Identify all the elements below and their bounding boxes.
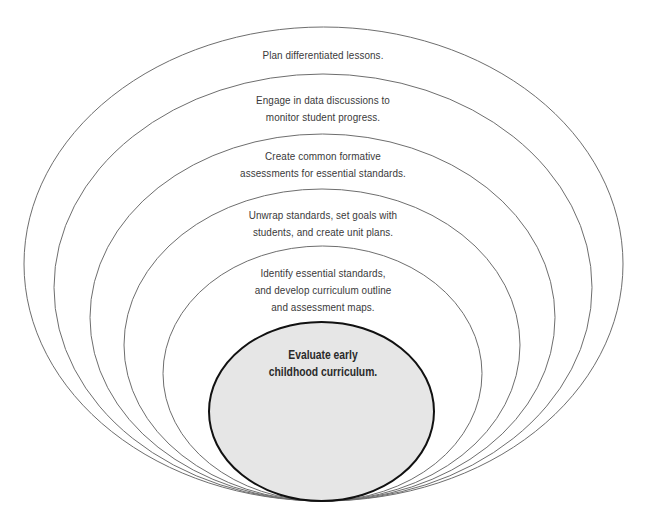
ring-1-line-1: Plan differentiated lessons. — [45, 47, 601, 64]
ring-5-line-2: and develop curriculum outline — [45, 282, 601, 299]
core-label: Evaluate early childhood curriculum. — [45, 347, 601, 381]
ring-2-line-2: monitor student progress. — [45, 109, 601, 126]
ring-1-label: Plan differentiated lessons. — [45, 47, 601, 64]
ring-4-line-1: Unwrap standards, set goals with — [45, 207, 601, 224]
ring-5-line-3: and assessment maps. — [45, 299, 601, 316]
ring-3-line-2: assessments for essential standards. — [45, 165, 601, 182]
ring-3-line-1: Create common formative — [45, 148, 601, 165]
core-line-1: Evaluate early — [45, 347, 601, 364]
core-line-2: childhood curriculum. — [45, 364, 601, 381]
ring-4-label: Unwrap standards, set goals with student… — [45, 207, 601, 241]
ring-2-label: Engage in data discussions to monitor st… — [45, 92, 601, 126]
ring-5-label: Identify essential standards, and develo… — [45, 265, 601, 316]
ring-2-line-1: Engage in data discussions to — [45, 92, 601, 109]
ring-4-line-2: students, and create unit plans. — [45, 224, 601, 241]
nested-ellipse-diagram — [0, 0, 646, 525]
ring-5-line-1: Identify essential standards, — [45, 265, 601, 282]
ring-3-label: Create common formative assessments for … — [45, 148, 601, 182]
